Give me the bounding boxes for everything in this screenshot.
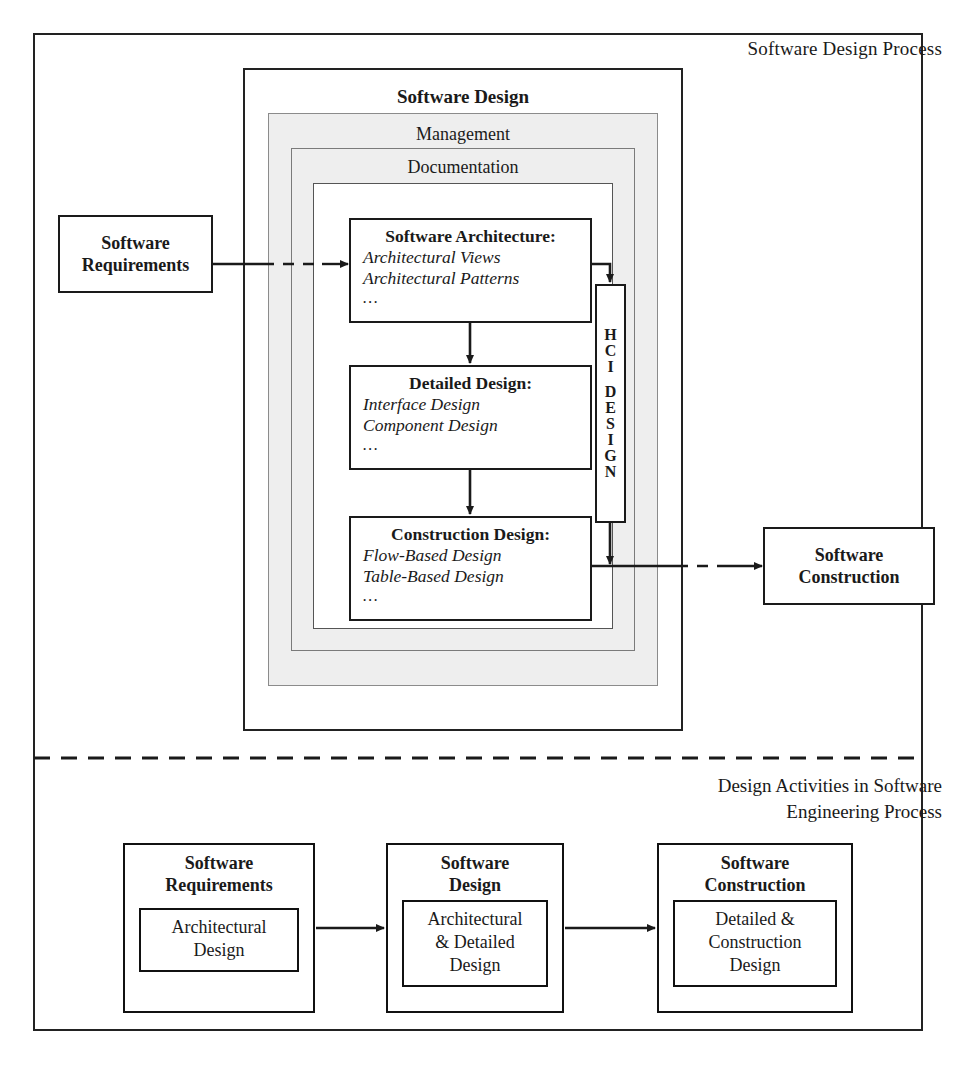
- hci-design-box: H C I D E S I G N: [595, 284, 626, 523]
- bottom-box-3-inner: Detailed & Construction Design: [673, 900, 837, 987]
- bottom-box-software-design: Software Design Architectural & Detailed…: [386, 843, 564, 1013]
- software-architecture-box: Software Architecture: Architectural Vie…: [349, 218, 592, 323]
- software-construction-label: Software Construction: [798, 544, 899, 589]
- management-label: Management: [269, 124, 657, 145]
- hci-letter-0: H: [604, 327, 616, 343]
- hci-letter-5: E: [605, 400, 616, 416]
- design-activities-caption-line-1: Design Activities in Software: [718, 775, 942, 796]
- bottom-box-3-inner-line-1: Detailed &: [715, 909, 794, 929]
- design-activities-caption-line-2: Engineering Process: [786, 801, 942, 822]
- bottom-box-3-title: Software Construction: [659, 853, 851, 896]
- bottom-box-2-title-line-2: Design: [449, 875, 501, 895]
- detailed-design-title: Detailed Design:: [351, 373, 590, 394]
- construction-design-item-2: Table-Based Design: [351, 566, 590, 587]
- hci-letter-8: G: [604, 448, 616, 464]
- detailed-design-ellipsis: ...: [351, 436, 590, 454]
- detailed-design-item-1: Interface Design: [351, 394, 590, 415]
- bottom-box-2-title: Software Design: [388, 853, 562, 896]
- software-requirements-box: Software Requirements: [58, 215, 213, 293]
- bottom-box-software-requirements: Software Requirements Architectural Desi…: [123, 843, 315, 1013]
- bottom-box-3-inner-line-2: Construction: [709, 932, 802, 952]
- bottom-box-2-title-line-1: Software: [441, 853, 510, 873]
- hci-letter-6: S: [606, 416, 615, 432]
- construction-design-item-1: Flow-Based Design: [351, 545, 590, 566]
- design-activities-caption: Design Activities in Software Engineerin…: [522, 773, 942, 824]
- bottom-box-2-inner-line-3: Design: [450, 955, 501, 975]
- software-architecture-ellipsis: ...: [351, 289, 590, 307]
- hci-letter-4: D: [605, 384, 617, 400]
- hci-letter-7: I: [607, 432, 613, 448]
- bottom-box-1-inner-line-2: Design: [194, 940, 245, 960]
- bottom-box-3-title-line-1: Software: [721, 853, 790, 873]
- bottom-box-2-inner: Architectural & Detailed Design: [402, 900, 548, 987]
- software-architecture-item-1: Architectural Views: [351, 247, 590, 268]
- bottom-box-2-inner-line-1: Architectural: [428, 909, 523, 929]
- bottom-box-1-inner: Architectural Design: [139, 908, 299, 972]
- bottom-box-3-inner-line-3: Design: [730, 955, 781, 975]
- diagram-canvas: Software Design Process Software Design …: [0, 0, 954, 1068]
- bottom-box-1-inner-line-1: Architectural: [172, 917, 267, 937]
- bottom-box-1-title-line-1: Software: [185, 853, 254, 873]
- construction-design-title: Construction Design:: [351, 524, 590, 545]
- documentation-label: Documentation: [292, 157, 634, 178]
- software-construction-box: Software Construction: [763, 527, 935, 605]
- bottom-box-2-inner-line-2: & Detailed: [435, 932, 514, 952]
- software-construction-line-2: Construction: [798, 567, 899, 587]
- detailed-design-item-2: Component Design: [351, 415, 590, 436]
- software-design-process-label: Software Design Process: [747, 38, 942, 60]
- software-construction-line-1: Software: [815, 545, 884, 565]
- detailed-design-box: Detailed Design: Interface Design Compon…: [349, 365, 592, 470]
- bottom-box-1-title-line-2: Requirements: [165, 875, 273, 895]
- software-requirements-line-1: Software: [101, 233, 170, 253]
- hci-letter-1: C: [605, 343, 617, 359]
- construction-design-ellipsis: ...: [351, 587, 590, 605]
- software-requirements-line-2: Requirements: [82, 255, 190, 275]
- construction-design-box: Construction Design: Flow-Based Design T…: [349, 516, 592, 621]
- software-design-title: Software Design: [245, 86, 681, 108]
- bottom-box-1-title: Software Requirements: [125, 853, 313, 896]
- software-architecture-title: Software Architecture:: [351, 226, 590, 247]
- bottom-box-software-construction: Software Construction Detailed & Constru…: [657, 843, 853, 1013]
- hci-letter-9: N: [605, 464, 617, 480]
- software-architecture-item-2: Architectural Patterns: [351, 268, 590, 289]
- bottom-box-3-title-line-2: Construction: [704, 875, 805, 895]
- hci-letter-2: I: [607, 359, 613, 375]
- software-requirements-label: Software Requirements: [82, 232, 190, 277]
